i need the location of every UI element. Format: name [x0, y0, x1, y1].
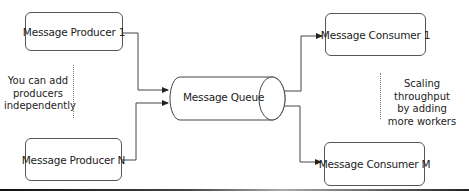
producer-n-label: Message Producer N	[22, 154, 125, 166]
note-line: by adding	[382, 103, 462, 116]
note-line: You can add	[4, 75, 72, 88]
dotted-divider-right	[380, 73, 381, 119]
consumer-1-node: Message Consumer 1	[325, 13, 426, 56]
producer-scaling-note: You can add producers independently	[4, 75, 72, 113]
producer-n-node: Message Producer N	[25, 138, 122, 181]
dotted-divider-left	[73, 65, 74, 118]
consumer-scaling-note: Scaling throughput by adding more worker…	[382, 78, 462, 128]
note-line: more workers	[382, 116, 462, 129]
edge-queue-consumer1	[285, 36, 322, 91]
consumer-1-label: Message Consumer 1	[321, 29, 430, 41]
edge-queue-consumerM	[285, 106, 321, 162]
producer-1-label: Message Producer 1	[23, 26, 125, 38]
note-line: Scaling throughput	[382, 78, 462, 103]
queue-label: Message Queue	[183, 91, 264, 103]
bottom-rule	[0, 189, 469, 191]
note-line: independently	[4, 100, 72, 113]
edge-producer1-queue	[123, 33, 168, 90]
producer-1-node: Message Producer 1	[25, 12, 123, 51]
note-line: producers	[4, 88, 72, 101]
consumer-m-label: Message Consumer M	[319, 158, 431, 170]
consumer-m-node: Message Consumer M	[324, 142, 425, 186]
edge-producerN-queue	[122, 103, 168, 160]
